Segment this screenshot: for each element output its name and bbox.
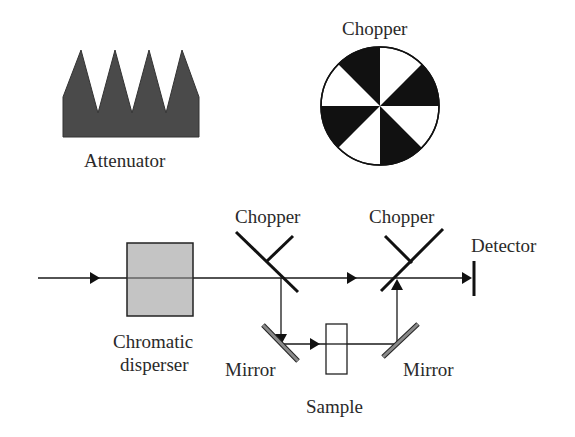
arrow-icon [310, 338, 320, 350]
chopper-combiner-icon [381, 229, 443, 291]
chopper-left-label: Chopper [235, 207, 300, 226]
arrow-icon [347, 272, 357, 284]
chopper-splitter-icon [236, 232, 298, 292]
mirror-right-label: Mirror [403, 360, 454, 379]
chopper-wheel-icon [321, 47, 439, 165]
chromatic-disperser-box [127, 243, 193, 316]
disperser-label-line2: disperser [120, 355, 189, 374]
mirror-left-label: Mirror [225, 360, 276, 379]
sample-cell [326, 324, 347, 374]
chopper-wheel-label: Chopper [342, 19, 407, 38]
detector-label: Detector [471, 236, 536, 255]
attenuator-label: Attenuator [84, 151, 165, 170]
sample-label: Sample [306, 397, 363, 416]
disperser-label-line1: Chromatic [113, 332, 193, 351]
attenuator-icon [63, 50, 199, 137]
arrow-icon [90, 272, 100, 284]
arrow-icon [462, 272, 472, 284]
chopper-right-label: Chopper [369, 207, 434, 226]
